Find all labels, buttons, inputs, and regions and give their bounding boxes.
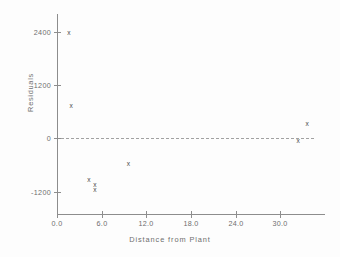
y-tick [54,138,61,139]
y-tick-label: 2400 [34,28,51,37]
x-tick [102,211,103,218]
x-axis-title: Distance from Plant [0,235,340,244]
data-point: x [93,186,96,193]
data-point: x [87,176,90,183]
x-tick [191,211,192,218]
x-tick-label: 30.0 [272,219,287,228]
y-tick [54,85,61,86]
data-point: x [297,138,300,145]
data-point: x [127,160,130,167]
scatter-chart: 240012000-1200 0.06.012.018.024.030.0 xx… [0,0,340,257]
x-tick-label: 24.0 [228,219,243,228]
zero-reference-line [61,138,313,139]
y-tick-label: 0 [47,134,51,143]
x-tick [57,211,58,218]
x-tick-label: 18.0 [183,219,198,228]
data-point: x [305,121,308,128]
x-tick-label: 12.0 [138,219,153,228]
y-axis-title: Residuals [26,65,35,121]
y-tick-label: -1200 [31,188,51,197]
x-tick-label: 0.0 [52,219,63,228]
data-point: x [69,103,72,110]
y-tick [54,192,61,193]
data-point: x [67,29,70,36]
x-tick [236,211,237,218]
x-tick [280,211,281,218]
y-tick [54,32,61,33]
y-axis-line [57,14,58,216]
y-tick-label: 1200 [34,81,51,90]
data-point: x [93,181,96,188]
x-tick [146,211,147,218]
x-tick-label: 6.0 [97,219,108,228]
